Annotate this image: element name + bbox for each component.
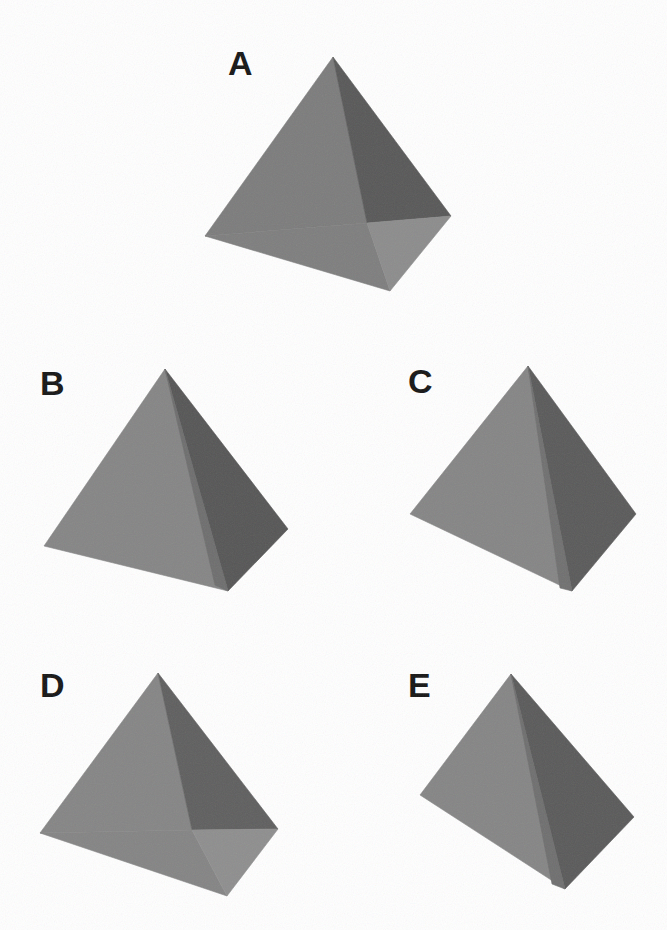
pyramid-e [0,0,667,930]
figure-canvas: A B C D [0,0,667,930]
